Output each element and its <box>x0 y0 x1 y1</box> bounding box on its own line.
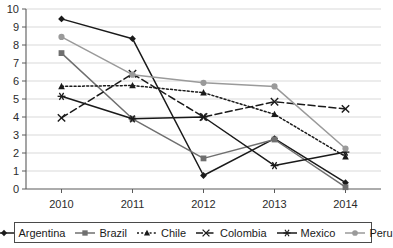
marker-circle <box>200 80 206 86</box>
x-tick-label: 2010 <box>49 198 73 210</box>
series-line <box>62 86 346 157</box>
y-tick-label: 7 <box>13 57 19 69</box>
marker-cross <box>58 114 65 121</box>
y-tick-label: 0 <box>13 183 19 195</box>
legend-item-colombia[interactable]: Colombia <box>195 227 266 239</box>
marker-diamond <box>58 16 65 23</box>
legend-key-circle-icon <box>344 227 366 239</box>
y-tick-label: 1 <box>13 165 19 177</box>
x-tick-label: 2013 <box>262 198 286 210</box>
y-axis-tick-labels: 012345678910 <box>7 3 19 195</box>
x-tick-label: 2012 <box>191 198 215 210</box>
legend-item-argentina[interactable]: Argentina <box>0 227 65 239</box>
legend-label: Peru <box>369 227 392 239</box>
y-tick-label: 6 <box>13 75 19 87</box>
y-tick-label: 10 <box>7 3 19 15</box>
marker-asterisk <box>283 229 290 235</box>
legend-label: Colombia <box>220 227 266 239</box>
marker-diamond <box>200 172 207 179</box>
plot-area: 012345678910 20102011201220132014 <box>0 0 388 222</box>
marker-circle <box>353 230 359 236</box>
marker-circle <box>271 83 277 89</box>
marker-square <box>59 50 65 56</box>
legend-item-peru[interactable]: Peru <box>344 227 392 239</box>
y-tick-label: 4 <box>13 111 19 123</box>
marker-triangle <box>342 153 349 159</box>
legend-label: Brazil <box>99 227 127 239</box>
marker-diamond <box>1 229 7 235</box>
marker-square <box>83 230 88 235</box>
legend-key-square-icon <box>74 227 96 239</box>
y-tick-label: 9 <box>13 21 19 33</box>
marker-square <box>201 156 207 162</box>
marker-square <box>272 137 278 143</box>
x-axis-tick-labels: 20102011201220132014 <box>49 198 357 210</box>
legend-label: Mexico <box>301 227 336 239</box>
legend-item-brazil[interactable]: Brazil <box>74 227 127 239</box>
marker-diamond <box>129 35 136 42</box>
marker-circle <box>58 34 64 40</box>
series-line <box>62 53 346 187</box>
legend-item-chile[interactable]: Chile <box>136 227 186 239</box>
legend-label: Chile <box>161 227 186 239</box>
legend-key-triangle-icon <box>136 227 158 239</box>
legend-item-mexico[interactable]: Mexico <box>276 227 336 239</box>
gridlines <box>22 9 381 189</box>
legend-key-asterisk-icon <box>276 227 298 239</box>
legend-key-diamond-icon <box>0 227 15 239</box>
series-layer <box>58 16 350 191</box>
y-tick-label: 3 <box>13 129 19 141</box>
y-tick-label: 5 <box>13 93 19 105</box>
x-tick-label: 2014 <box>333 198 357 210</box>
chart-legend: ArgentinaBrazilChileColombiaMexicoPeru <box>14 222 372 243</box>
legend-key-cross-icon <box>195 227 217 239</box>
marker-circle <box>342 145 348 151</box>
marker-circle <box>129 72 135 78</box>
series-brazil <box>59 50 349 190</box>
axes <box>26 9 381 193</box>
marker-square <box>343 184 349 190</box>
x-tick-label: 2011 <box>121 198 145 210</box>
y-tick-label: 2 <box>13 147 19 159</box>
marker-triangle <box>144 229 150 235</box>
legend-label: Argentina <box>18 227 65 239</box>
y-tick-label: 8 <box>13 39 19 51</box>
